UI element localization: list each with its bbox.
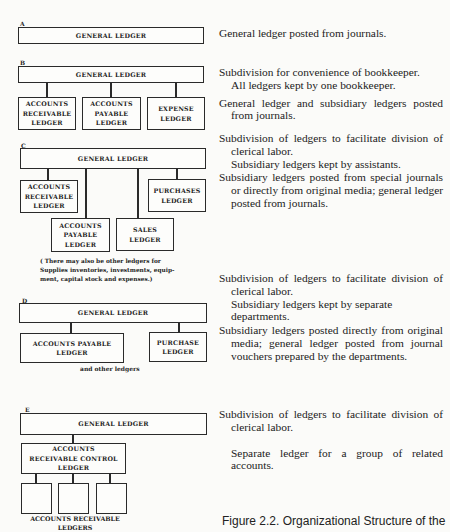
- section-c-desc-1: Subdivision of ledgers to facilitate div…: [219, 132, 443, 158]
- section-b-expense-ledger-box: EXPENSE LEDGER: [147, 97, 205, 130]
- section-e-general-ledger-box: GENERAL LEDGER: [20, 413, 207, 435]
- section-a-label: A: [20, 20, 25, 27]
- section-c-connector: [85, 169, 87, 218]
- section-e-sub-ledger-box: [21, 483, 52, 514]
- section-b-desc-1: Subdivision for convenience of bookkeepe…: [219, 66, 443, 79]
- section-e-sub-ledger-box: [58, 483, 89, 514]
- section-e-label: E: [25, 406, 30, 413]
- section-c-general-ledger-box: GENERAL LEDGER: [20, 148, 206, 169]
- section-e-sub-ledger-box: [96, 483, 127, 514]
- section-c-sales-ledger-box: SALES LEDGER: [116, 218, 174, 251]
- section-b-connector: [175, 83, 177, 97]
- section-c-accounts-payable-ledger-box: ACCOUNTS PAYABLE LEDGER: [51, 218, 110, 252]
- section-e-connector: [35, 474, 37, 483]
- section-d-connector: [70, 323, 72, 333]
- section-c-desc-3: Subsidiary ledgers posted from special j…: [219, 171, 443, 209]
- section-e-desc-1: Subdivision of ledgers to facilitate div…: [219, 408, 443, 434]
- section-b-connector: [46, 83, 48, 97]
- section-d-accounts-payable-ledger-box: ACCOUNTS PAYABLE LEDGER: [20, 333, 124, 363]
- section-a-general-ledger-box: GENERAL LEDGER: [18, 27, 204, 44]
- section-c-connector: [137, 169, 139, 218]
- section-c-connector: [47, 169, 49, 180]
- section-d-purchase-ledger-box: PURCHASE LEDGER: [149, 332, 207, 362]
- section-e-desc-2: Separate ledger for a group of related a…: [219, 447, 443, 473]
- section-e-connector: [109, 474, 111, 483]
- section-d-note: and other ledgers: [80, 364, 160, 373]
- section-b-description: Subdivision for convenience of bookkeepe…: [219, 66, 443, 122]
- section-c-description: Subdivision of ledgers to facilitate div…: [219, 132, 443, 210]
- section-b-desc-3: General ledger and subsidiary ledgers po…: [219, 97, 443, 123]
- section-d-description: Subdivision of ledgers to facilitate div…: [219, 272, 443, 363]
- section-d-desc-2: Subsidiary ledgers kept by separate depa…: [219, 298, 443, 324]
- section-c-purchases-ledger-box: PURCHASES LEDGER: [148, 179, 206, 212]
- section-e-connector: [72, 474, 74, 483]
- section-c-desc-2: Subsidiary ledgers kept by assistants.: [219, 158, 443, 171]
- section-b-label: B: [20, 59, 25, 66]
- section-c-note: ( There may also be other ledgers for Su…: [40, 257, 185, 284]
- figure-caption: Figure 2.2. Organizational Structure of …: [222, 514, 450, 528]
- section-b-general-ledger-box: GENERAL LEDGER: [18, 66, 204, 83]
- section-d-general-ledger-box: GENERAL LEDGER: [19, 303, 207, 323]
- section-e-sub-ledgers-label: ACCOUNTS RECEIVABLE LEDGERS: [20, 514, 130, 532]
- section-b-accounts-payable-ledger-box: ACCOUNTS PAYABLE LEDGER: [82, 97, 141, 130]
- section-e-description: Subdivision of ledgers to facilitate div…: [219, 408, 443, 472]
- section-b-connector: [110, 83, 112, 97]
- section-c-accounts-receivable-ledger-box: ACCOUNTS RECEIVABLE LEDGER: [20, 180, 78, 213]
- section-a-desc-1: General ledger posted from journals.: [219, 27, 443, 40]
- section-b-desc-2: All ledgers kept by one bookkeeper.: [219, 79, 443, 92]
- section-d-desc-3: Subsidiary ledgers posted directly from …: [219, 324, 443, 362]
- section-d-connector: [178, 323, 180, 332]
- section-b-accounts-receivable-ledger-box: ACCOUNTS RECEIVABLE LEDGER: [18, 97, 76, 130]
- section-d-desc-1: Subdivision of ledgers to facilitate div…: [219, 272, 443, 298]
- section-a-description: General ledger posted from journals.: [219, 27, 443, 40]
- section-e-accounts-receivable-control-ledger-box: ACCOUNTS RECEIVABLE CONTROL LEDGER: [21, 443, 126, 474]
- section-c-connector: [176, 169, 178, 179]
